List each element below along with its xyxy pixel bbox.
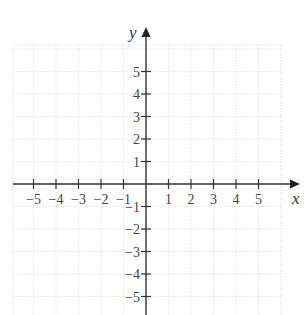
x-tick-label: 1	[165, 192, 172, 207]
y-tick-label: −2	[125, 222, 140, 237]
x-tick-label: −2	[94, 192, 109, 207]
y-tick-label: 5	[133, 65, 140, 80]
x-tick-label: 2	[188, 192, 195, 207]
x-axis-label: x	[291, 189, 300, 208]
y-tick-label: 4	[133, 87, 140, 102]
x-axis-ticks: −5−4−3−2−112345	[26, 179, 262, 207]
y-axis-label: y	[127, 23, 137, 42]
x-tick-label: −5	[26, 192, 41, 207]
y-axis-arrow-icon	[142, 27, 151, 37]
x-tick-label: −4	[49, 192, 64, 207]
x-tick-label: 5	[255, 192, 262, 207]
x-axis-arrow-icon	[290, 180, 300, 189]
x-tick-label: 3	[210, 192, 217, 207]
coordinate-plane: −5−4−3−2−112345 54321−1−2−3−4−5 x y	[0, 0, 306, 315]
x-tick-label: 4	[233, 192, 240, 207]
y-tick-label: 1	[133, 155, 140, 170]
y-tick-label: 2	[133, 132, 140, 147]
y-tick-label: −1	[125, 200, 140, 215]
y-tick-label: −5	[125, 290, 140, 305]
y-tick-label: 3	[133, 110, 140, 125]
y-tick-label: −3	[125, 245, 140, 260]
x-tick-label: −3	[71, 192, 86, 207]
y-tick-label: −4	[125, 267, 140, 282]
